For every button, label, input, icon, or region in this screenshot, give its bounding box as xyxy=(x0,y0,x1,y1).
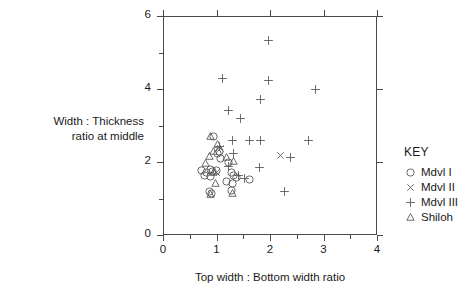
y-tick-minor xyxy=(159,53,163,54)
y-tick-major-right xyxy=(377,89,383,90)
legend: KEY Mdvl IMdvl IIMdvl IIIShiloh xyxy=(404,145,470,225)
y-tick-major-right xyxy=(377,162,383,163)
y-axis-title-line-1: Width : Thickness xyxy=(8,114,144,129)
x-axis-title: Top width : Bottom width ratio xyxy=(163,271,377,283)
y-tick-major xyxy=(157,89,163,90)
legend-label: Mdvl III xyxy=(421,196,458,209)
legend-item-mdvl-ii: Mdvl II xyxy=(404,180,470,195)
x-tick-minor xyxy=(190,235,191,239)
legend-item-shiloh: Shiloh xyxy=(404,210,470,225)
x-tick-label: 2 xyxy=(260,243,280,255)
x-tick-major xyxy=(163,235,164,241)
x-tick-major-top xyxy=(324,10,325,16)
y-tick-major-right xyxy=(377,16,383,17)
x-tick-label: 3 xyxy=(314,243,334,255)
legend-title: KEY xyxy=(404,145,470,159)
y-axis-title-line-2: ratio at middle xyxy=(8,129,144,144)
x-tick-major-top xyxy=(217,10,218,16)
x-tick-label: 1 xyxy=(207,243,227,255)
scatter-plot-figure: Width : Thickness ratio at middle 012340… xyxy=(0,0,472,298)
x-tick-label: 4 xyxy=(367,243,387,255)
y-tick-minor xyxy=(159,126,163,127)
y-tick-label: 6 xyxy=(131,8,151,20)
y-axis-title: Width : Thickness ratio at middle xyxy=(8,114,144,144)
y-tick-label: 4 xyxy=(131,81,151,93)
legend-marker-plus-icon xyxy=(404,196,417,209)
legend-label: Mdvl II xyxy=(421,181,455,194)
x-tick-major xyxy=(324,235,325,241)
x-tick-major xyxy=(217,235,218,241)
plot-area xyxy=(163,16,377,235)
x-tick-major xyxy=(270,235,271,241)
legend-item-mdvl-iii: Mdvl III xyxy=(404,195,470,210)
x-tick-minor xyxy=(243,235,244,239)
legend-label: Shiloh xyxy=(421,211,453,224)
y-tick-major xyxy=(157,162,163,163)
legend-marker-triangle-icon xyxy=(404,211,417,224)
y-tick-label: 2 xyxy=(131,154,151,166)
y-tick-major xyxy=(157,16,163,17)
legend-label: Mdvl I xyxy=(421,166,452,179)
y-tick-minor xyxy=(159,199,163,200)
legend-marker-circle-icon xyxy=(404,166,417,179)
legend-item-mdvl-i: Mdvl I xyxy=(404,165,470,180)
legend-marker-cross-x-icon xyxy=(404,181,417,194)
x-tick-minor xyxy=(297,235,298,239)
x-tick-major-top xyxy=(163,10,164,16)
y-tick-major-right xyxy=(377,235,383,236)
x-tick-label: 0 xyxy=(153,243,173,255)
y-tick-label: 0 xyxy=(131,227,151,239)
x-tick-minor xyxy=(350,235,351,239)
y-tick-major xyxy=(157,235,163,236)
legend-items: Mdvl IMdvl IIMdvl IIIShiloh xyxy=(404,165,470,225)
x-tick-major-top xyxy=(270,10,271,16)
